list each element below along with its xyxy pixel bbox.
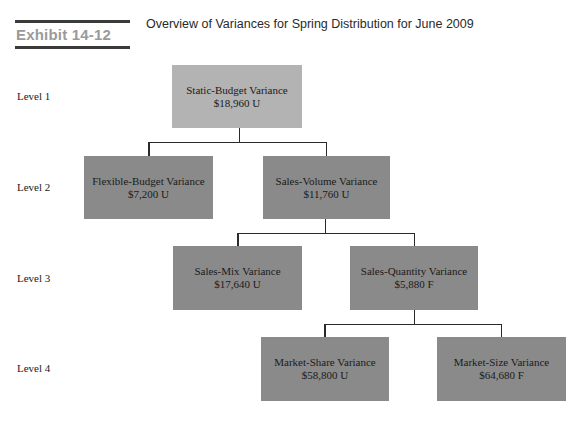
market-size-variance-node: Market-Size Variance $64,680 F [437, 337, 566, 401]
connector [148, 142, 327, 144]
connector [326, 142, 328, 156]
connector [148, 142, 150, 156]
header-top-rule [15, 20, 130, 23]
sales-mix-variance-node: Sales-Mix Variance $17,640 U [173, 246, 302, 310]
level-2-label: Level 2 [17, 181, 50, 193]
flexible-budget-variance-node: Flexible-Budget Variance $7,200 U [84, 156, 213, 219]
node-value: $7,200 U [128, 188, 169, 201]
sales-quantity-variance-node: Sales-Quantity Variance $5,880 F [350, 246, 478, 310]
node-name: Sales-Volume Variance [276, 175, 378, 188]
connector [237, 233, 239, 246]
node-value: $5,880 F [394, 278, 433, 291]
connector [324, 324, 502, 326]
header-bottom-rule [15, 46, 130, 49]
connector [414, 310, 416, 324]
connector [501, 324, 503, 337]
exhibit-label: Exhibit 14-12 [16, 26, 111, 43]
level-4-label: Level 4 [17, 362, 50, 374]
node-value: $11,760 U [303, 188, 349, 201]
node-name: Market-Size Variance [454, 356, 549, 369]
connector [414, 233, 416, 246]
connector [325, 219, 327, 233]
node-value: $58,800 U [302, 369, 348, 382]
level-3-label: Level 3 [17, 272, 50, 284]
node-value: $64,680 F [479, 369, 524, 382]
node-name: Sales-Quantity Variance [361, 265, 467, 278]
node-name: Sales-Mix Variance [194, 265, 280, 278]
connector [324, 324, 326, 337]
static-budget-variance-node: Static-Budget Variance $18,960 U [172, 65, 302, 128]
node-value: $18,960 U [214, 97, 260, 110]
level-1-label: Level 1 [17, 90, 50, 102]
node-value: $17,640 U [214, 278, 260, 291]
sales-volume-variance-node: Sales-Volume Variance $11,760 U [263, 156, 390, 219]
node-name: Static-Budget Variance [186, 84, 288, 97]
market-share-variance-node: Market-Share Variance $58,800 U [261, 337, 389, 401]
connector [239, 128, 241, 142]
node-name: Market-Share Variance [274, 356, 376, 369]
node-name: Flexible-Budget Variance [92, 175, 205, 188]
exhibit-title: Overview of Variances for Spring Distrib… [146, 17, 474, 31]
connector [237, 233, 415, 235]
